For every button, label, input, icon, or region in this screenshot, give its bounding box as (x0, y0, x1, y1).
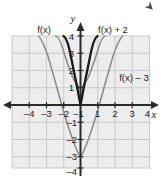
x-tick-label: 2 (112, 108, 117, 119)
y-tick-label: –3 (66, 151, 77, 162)
x-axis-label: x (151, 108, 157, 120)
x-tick-label: 4 (145, 108, 150, 119)
y-tick-label: 4 (69, 31, 74, 42)
x-axis-arrow-left (3, 101, 11, 109)
arrow-artifact-icon (144, 1, 155, 12)
y-tick-label: 2 (69, 65, 74, 76)
y-axis-arrow (77, 22, 85, 31)
graph-figure: –4 –3 –2 –1 1 2 3 4 4 3 2 1 –1 –2 –3 –4 … (0, 0, 163, 176)
curve-label-f-of-x: f(x) (37, 24, 51, 35)
y-tick-label: –2 (66, 134, 77, 145)
curve-label-f-of-x-plus-2: f(x) + 2 (98, 24, 128, 35)
y-tick-label: 3 (69, 48, 74, 59)
x-tick-label: –4 (24, 108, 35, 119)
y-tick-label: –4 (66, 166, 77, 176)
y-axis-label: y (70, 12, 76, 24)
curve-label-f-of-x-minus-3: f(x) – 3 (119, 72, 149, 83)
x-tick-label: 3 (130, 108, 135, 119)
x-tick-label: –3 (41, 108, 52, 119)
coordinate-plane-svg: –4 –3 –2 –1 1 2 3 4 4 3 2 1 –1 –2 –3 –4 … (0, 0, 163, 176)
x-tick-label: 1 (95, 108, 100, 119)
y-tick-label: 1 (69, 82, 74, 93)
y-tick-label: –1 (66, 117, 77, 128)
